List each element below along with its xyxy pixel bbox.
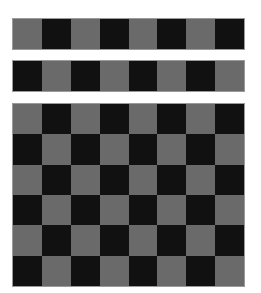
board-cell [215, 195, 244, 225]
strip-cell [157, 19, 186, 49]
board-cell [71, 134, 100, 164]
board-cell [100, 104, 129, 134]
board-cell [13, 195, 42, 225]
board-cell [13, 165, 42, 195]
strip-cell [157, 61, 186, 91]
board-cell [186, 104, 215, 134]
board-cell [100, 225, 129, 255]
board-cell [100, 195, 129, 225]
board-cell [13, 134, 42, 164]
strip-cell [71, 61, 100, 91]
board-cell [186, 225, 215, 255]
board-cell [157, 256, 186, 286]
board-cell [42, 195, 71, 225]
strip-cell [129, 19, 158, 49]
board-cell [71, 165, 100, 195]
strip-cell [13, 19, 42, 49]
board-cell [215, 134, 244, 164]
checkerboard [13, 104, 244, 286]
board-cell [129, 195, 158, 225]
strip-cell [100, 61, 129, 91]
board-cell [157, 225, 186, 255]
board-cell [100, 165, 129, 195]
board-cell [71, 225, 100, 255]
strip-cell [186, 19, 215, 49]
checkerboard-figure [0, 0, 261, 293]
strip-cell [42, 19, 71, 49]
board-cell [42, 104, 71, 134]
board-cell [129, 134, 158, 164]
board-cell [42, 134, 71, 164]
strip-cell [215, 19, 244, 49]
board-cell [157, 195, 186, 225]
board-cell [100, 256, 129, 286]
board-cell [129, 256, 158, 286]
board-cell [215, 104, 244, 134]
board-cell [13, 256, 42, 286]
board-cell [215, 165, 244, 195]
board-cell [42, 165, 71, 195]
board-cell [215, 225, 244, 255]
top-strip [13, 19, 244, 49]
board-cell [129, 165, 158, 195]
board-cell [129, 104, 158, 134]
board-cell [42, 256, 71, 286]
strip-cell [42, 61, 71, 91]
middle-strip [13, 61, 244, 91]
strip-cell [215, 61, 244, 91]
board-cell [186, 256, 215, 286]
board-cell [157, 165, 186, 195]
board-cell [186, 134, 215, 164]
board-cell [71, 195, 100, 225]
board-cell [100, 134, 129, 164]
strip-cell [13, 61, 42, 91]
board-cell [71, 256, 100, 286]
board-cell [157, 104, 186, 134]
board-cell [157, 134, 186, 164]
board-cell [215, 256, 244, 286]
board-cell [186, 195, 215, 225]
board-cell [13, 225, 42, 255]
board-cell [186, 165, 215, 195]
board-cell [129, 225, 158, 255]
board-cell [13, 104, 42, 134]
strip-cell [129, 61, 158, 91]
strip-cell [100, 19, 129, 49]
board-cell [71, 104, 100, 134]
board-cell [42, 225, 71, 255]
strip-cell [71, 19, 100, 49]
strip-cell [186, 61, 215, 91]
